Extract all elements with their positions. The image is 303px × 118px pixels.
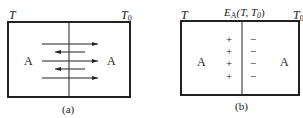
temp-t-a: T — [9, 9, 16, 21]
temp-t0-b-main: T — [293, 8, 300, 22]
emf-args: (T, T — [237, 6, 258, 18]
minus-sign-3: − — [250, 57, 256, 69]
emf-close: ) — [261, 6, 265, 18]
minus-sign-4: − — [250, 70, 256, 82]
material-a-right: A — [107, 55, 116, 67]
material-b-left: A — [197, 56, 206, 68]
material-b-right: A — [280, 56, 289, 68]
material-a-left: A — [24, 55, 33, 67]
plus-sign-1: + — [226, 33, 232, 45]
emf-symbol: E — [224, 6, 231, 18]
minus-sign-2: − — [250, 45, 256, 57]
temp-t0-a-main: T — [121, 8, 128, 22]
emf-label: EA(T, T0) — [224, 6, 265, 22]
plus-sign-4: + — [226, 70, 232, 82]
plus-sign-2: + — [226, 45, 232, 57]
temp-t0-b: T0 — [293, 9, 303, 25]
plus-sign-3: + — [226, 57, 232, 69]
temp-t-b: T — [181, 9, 188, 21]
temp-t0-a: T0 — [121, 9, 132, 25]
temp-t0-b-sub: 0 — [300, 14, 303, 23]
minus-sign-1: − — [250, 33, 256, 45]
caption-b: (b) — [235, 100, 248, 112]
temp-t0-a-sub: 0 — [128, 14, 132, 23]
caption-a: (a) — [62, 103, 74, 115]
